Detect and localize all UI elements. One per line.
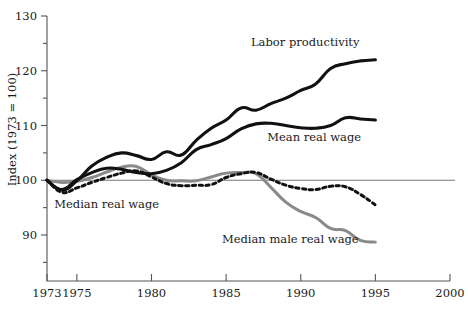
chart-container: 9010011012013019731975198019851990199520… xyxy=(0,0,468,318)
x-tick-label: 1980 xyxy=(137,286,166,300)
x-tick-label: 1975 xyxy=(62,286,91,300)
annotation-mean-real-wage: Mean real wage xyxy=(267,130,361,144)
y-axis-title-text: Index (1973 = 100) xyxy=(5,73,19,186)
y-tick-label: 130 xyxy=(15,9,37,23)
series-annotations: Labor productivityMean real wageMedian r… xyxy=(54,35,361,246)
line-chart: 9010011012013019731975198019851990199520… xyxy=(0,0,468,318)
annotation-median-male-real-wage: Median male real wage xyxy=(222,232,359,246)
x-tick-label: 1973 xyxy=(32,286,61,300)
data-series xyxy=(47,60,375,242)
annotation-labor-productivity: Labor productivity xyxy=(251,35,360,49)
tick-labels: 9010011012013019731975198019851990199520… xyxy=(15,9,465,300)
x-tick-label: 2000 xyxy=(435,286,464,300)
annotation-median-real-wage: Median real wage xyxy=(54,197,159,211)
y-tick-label: 90 xyxy=(22,228,37,242)
x-tick-label: 1990 xyxy=(286,286,315,300)
x-tick-label: 1995 xyxy=(361,286,390,300)
y-axis-title: Index (1973 = 100) xyxy=(5,73,19,186)
x-tick-label: 1985 xyxy=(211,286,240,300)
